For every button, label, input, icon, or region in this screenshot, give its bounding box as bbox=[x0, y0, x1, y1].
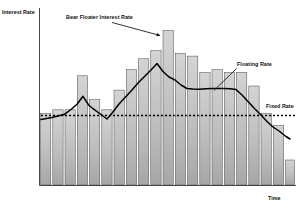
bar-item bbox=[41, 113, 51, 185]
bear-floater-annotation-label: Bear Floater Interest Rate bbox=[66, 14, 133, 20]
bar-item bbox=[188, 56, 198, 185]
bar-item bbox=[53, 110, 63, 185]
bar-item bbox=[65, 110, 75, 185]
y-axis-title: Interest Rate bbox=[2, 9, 35, 15]
fixed-rate-annotation-label: Fixed Rate bbox=[266, 103, 294, 109]
x-axis-title: Time bbox=[268, 195, 280, 201]
floating-rate-annotation-label: Floating Rate bbox=[237, 61, 272, 67]
bar-item bbox=[102, 110, 112, 185]
bar-item bbox=[163, 30, 173, 185]
bar-item bbox=[286, 160, 295, 185]
bar-item bbox=[175, 53, 185, 185]
bar-item bbox=[249, 86, 259, 185]
bar-item bbox=[237, 72, 247, 185]
chart-container: Bear Floater Interest Rate Floating Rate… bbox=[0, 0, 307, 210]
bar-item bbox=[151, 51, 161, 185]
bear-floater-chart: Bear Floater Interest Rate Floating Rate… bbox=[0, 0, 307, 210]
bar-item bbox=[77, 76, 87, 185]
